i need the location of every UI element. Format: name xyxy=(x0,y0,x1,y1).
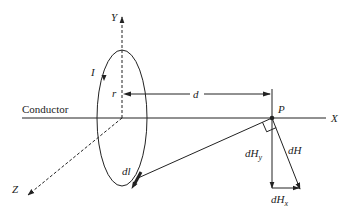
dl-label: dl xyxy=(122,165,131,177)
radius-label: r xyxy=(112,87,117,99)
x-axis-label: X xyxy=(330,112,339,124)
conductor-label: Conductor xyxy=(22,103,69,115)
current-label: I xyxy=(90,66,96,78)
z-axis xyxy=(28,118,122,195)
y-axis-label: Y xyxy=(111,11,119,23)
dhy-label: dHy xyxy=(245,147,262,162)
distance-label: d xyxy=(193,88,199,100)
biot-savart-loop-diagram: Y Z I Conductor X r d P dl dH xyxy=(0,0,350,217)
z-axis-label: Z xyxy=(12,183,19,195)
dhx-label: dHx xyxy=(271,193,288,208)
dh-label: dH xyxy=(288,144,303,156)
point-p-label: P xyxy=(277,103,285,115)
